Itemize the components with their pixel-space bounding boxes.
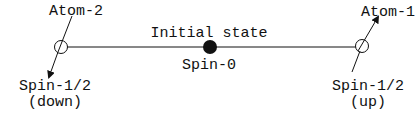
atom-1-leader-line (352, 51, 360, 72)
atom-2-spin-direction: (down) (28, 95, 82, 110)
atom-1-circle (356, 40, 369, 53)
atom-1-spin-label: Spin-1/2 (332, 79, 404, 94)
spin-0-label: Spin-0 (182, 58, 236, 73)
atom-1-label: Atom-1 (361, 5, 415, 20)
spin-down-arrow (49, 52, 58, 77)
initial-state-dot (203, 40, 217, 54)
atom-2-spin-label: Spin-1/2 (19, 79, 91, 94)
atom-2-label: Atom-2 (49, 4, 103, 19)
initial-state-label: Initial state (150, 26, 267, 41)
atom-2-circle (55, 41, 68, 54)
atom-1-spin-direction: (up) (350, 95, 386, 110)
spin-decay-diagram: Atom-2 Atom-1 Initial state Spin-0 Spin-… (0, 0, 416, 115)
